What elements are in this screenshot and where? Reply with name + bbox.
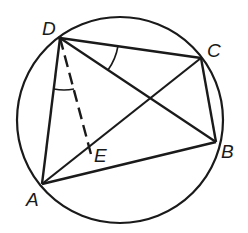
vertex-d <box>58 36 62 40</box>
angle-arc-ade <box>54 89 74 90</box>
segment-dc <box>60 38 201 58</box>
label-c: C <box>207 41 221 60</box>
angle-arc-bdc <box>108 46 118 70</box>
label-e: E <box>94 146 107 165</box>
circumcircle <box>17 17 223 223</box>
label-d: D <box>42 19 56 38</box>
segment-cb <box>201 58 216 142</box>
geometry-diagram: D C B A E <box>0 0 248 233</box>
label-b: B <box>221 142 234 161</box>
segment-ad <box>42 38 60 184</box>
label-a: A <box>26 190 39 209</box>
